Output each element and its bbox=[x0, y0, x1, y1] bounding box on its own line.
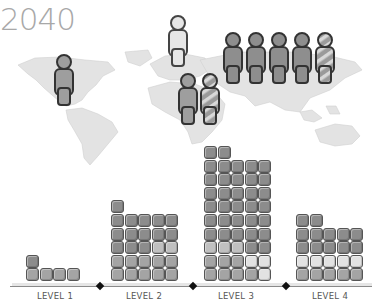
chart-block bbox=[125, 214, 138, 227]
chart-block bbox=[231, 200, 244, 213]
chart-block bbox=[204, 173, 217, 186]
chart-block bbox=[296, 255, 309, 268]
chart-block bbox=[204, 241, 217, 254]
chart-block bbox=[323, 228, 336, 241]
chart-block bbox=[337, 241, 350, 254]
chart-block bbox=[53, 268, 66, 281]
chart-block bbox=[138, 214, 151, 227]
chart-block bbox=[111, 268, 124, 281]
chart-block bbox=[231, 160, 244, 173]
chart-block bbox=[40, 268, 53, 281]
chart-block bbox=[296, 228, 309, 241]
chart-block bbox=[152, 241, 165, 254]
chart-block bbox=[218, 187, 231, 200]
chart-block bbox=[231, 241, 244, 254]
chart-block bbox=[152, 214, 165, 227]
chart-block bbox=[204, 255, 217, 268]
person-icon bbox=[169, 16, 187, 66]
person-icon bbox=[316, 33, 334, 83]
chart-block bbox=[165, 255, 178, 268]
chart-block bbox=[337, 228, 350, 241]
chart-block bbox=[258, 228, 271, 241]
chart-block bbox=[245, 200, 258, 213]
chart-block bbox=[204, 268, 217, 281]
chart-block bbox=[204, 160, 217, 173]
chart-block bbox=[258, 268, 271, 281]
chart-block bbox=[231, 268, 244, 281]
chart-block bbox=[245, 160, 258, 173]
category-label-level-4: LEVEL 4 bbox=[294, 291, 366, 301]
chart-block bbox=[218, 173, 231, 186]
chart-block bbox=[350, 255, 363, 268]
chart-block bbox=[204, 200, 217, 213]
chart-block bbox=[258, 200, 271, 213]
chart-block bbox=[245, 214, 258, 227]
category-label-level-2: LEVEL 2 bbox=[108, 291, 180, 301]
chart-block bbox=[310, 241, 323, 254]
person-icon bbox=[270, 33, 288, 83]
person-icon bbox=[247, 33, 265, 83]
person-icon bbox=[293, 33, 311, 83]
chart-block bbox=[111, 241, 124, 254]
chart-block bbox=[67, 268, 80, 281]
chart-block bbox=[218, 146, 231, 159]
chart-block bbox=[323, 241, 336, 254]
chart-block bbox=[204, 187, 217, 200]
chart-block bbox=[26, 268, 39, 281]
chart-block bbox=[231, 255, 244, 268]
chart-block bbox=[26, 255, 39, 268]
chart-block bbox=[165, 241, 178, 254]
chart-block bbox=[125, 268, 138, 281]
chart-block bbox=[258, 241, 271, 254]
chart-block bbox=[218, 214, 231, 227]
chart-block bbox=[310, 228, 323, 241]
chart-block bbox=[296, 268, 309, 281]
chart-block bbox=[350, 268, 363, 281]
chart-block bbox=[138, 241, 151, 254]
chart-block bbox=[245, 187, 258, 200]
chart-block bbox=[204, 214, 217, 227]
chart-block bbox=[231, 173, 244, 186]
chart-block bbox=[152, 268, 165, 281]
chart-block bbox=[165, 268, 178, 281]
chart-block bbox=[323, 268, 336, 281]
chart-block bbox=[337, 255, 350, 268]
chart-block bbox=[231, 214, 244, 227]
chart-block bbox=[258, 160, 271, 173]
chart-block bbox=[350, 241, 363, 254]
chart-block bbox=[245, 241, 258, 254]
chart-block bbox=[218, 241, 231, 254]
chart-block bbox=[310, 214, 323, 227]
chart-block bbox=[111, 200, 124, 213]
chart-block bbox=[165, 214, 178, 227]
category-label-level-1: LEVEL 1 bbox=[20, 291, 90, 301]
chart-block bbox=[218, 160, 231, 173]
chart-block bbox=[258, 187, 271, 200]
chart-block bbox=[165, 228, 178, 241]
chart-block bbox=[245, 255, 258, 268]
people-layer bbox=[0, 0, 372, 170]
category-label-level-3: LEVEL 3 bbox=[200, 291, 272, 301]
chart-block bbox=[111, 228, 124, 241]
chart-block bbox=[218, 255, 231, 268]
chart-block bbox=[218, 228, 231, 241]
person-icon bbox=[224, 33, 242, 83]
chart-block bbox=[138, 228, 151, 241]
chart-block bbox=[152, 228, 165, 241]
chart-block bbox=[111, 255, 124, 268]
chart-block bbox=[138, 255, 151, 268]
chart-block bbox=[245, 268, 258, 281]
chart-block bbox=[218, 268, 231, 281]
chart-block bbox=[218, 200, 231, 213]
chart-block bbox=[245, 173, 258, 186]
chart-block bbox=[125, 228, 138, 241]
chart-block bbox=[310, 255, 323, 268]
chart-block bbox=[258, 173, 271, 186]
chart-block bbox=[310, 268, 323, 281]
chart-block bbox=[245, 228, 258, 241]
chart-block bbox=[204, 146, 217, 159]
chart-block bbox=[231, 228, 244, 241]
person-icon bbox=[55, 55, 73, 105]
chart-block bbox=[152, 255, 165, 268]
chart-block bbox=[296, 214, 309, 227]
